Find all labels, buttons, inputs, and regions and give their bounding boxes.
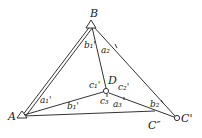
angle-label-c1p: c₁' — [89, 80, 100, 90]
angle-label-b1p-bottom: b₁' — [67, 101, 79, 111]
geometry-diagram: B A D C' C″ b₁' a₂ c₁' c₂' a₁' b₁' c₃ a₃… — [0, 0, 202, 138]
angle-label-b2: b₂ — [150, 99, 160, 109]
angle-label-c3: c₃ — [100, 96, 109, 106]
angle-label-a1p: a₁' — [40, 95, 51, 105]
edge-A-D — [24, 92, 103, 115]
tick-a2 — [115, 44, 117, 48]
edge-A-B-double — [25, 27, 93, 117]
vertex-D-marker — [103, 88, 108, 93]
angle-label-a3: a₃ — [113, 99, 122, 109]
vertex-B-marker — [86, 20, 96, 28]
point-label-C2: C″ — [148, 119, 161, 132]
edge-A-C2 — [24, 111, 155, 116]
edge-A-B — [22, 25, 91, 116]
angle-label-c2p: c₂' — [118, 82, 129, 92]
point-label-A: A — [7, 110, 16, 123]
point-label-C1: C' — [181, 112, 192, 125]
point-label-B: B — [89, 7, 98, 20]
angle-label-a2: a₂ — [101, 45, 110, 55]
point-label-D: D — [107, 74, 117, 87]
angle-label-b1p-top: b₁' — [84, 40, 96, 50]
vertex-C1-marker — [174, 115, 179, 120]
edge-B-D — [92, 27, 106, 88]
